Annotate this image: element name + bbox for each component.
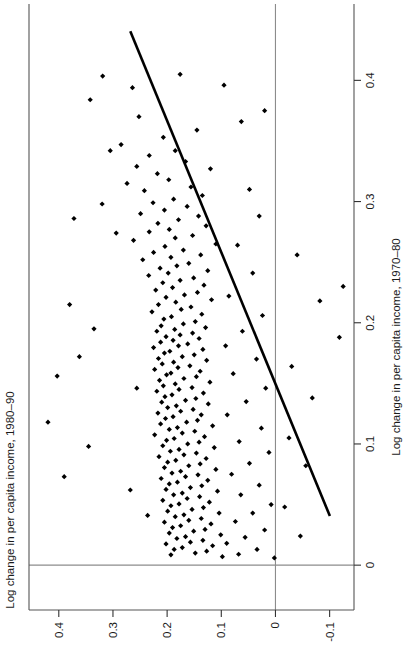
scatter-point [155,221,160,226]
scatter-point [152,367,157,372]
scatter-point [178,523,183,528]
scatter-point [155,171,160,176]
scatter-point [269,502,274,507]
scatter-point [176,501,181,506]
scatter-point [244,399,249,404]
scatter-point [208,166,213,171]
y-axis-title: Log change in per capita income, 1980–90 [4,391,16,608]
scatter-point [159,476,164,481]
y-axis-tick-label: 0.1 [215,622,227,638]
scatter-point [67,302,72,307]
scatter-point [185,496,190,501]
scatter-point [259,426,264,431]
scatter-point [181,376,186,381]
scatter-point [198,252,203,257]
scatter-point [224,541,229,546]
scatter-point [145,513,150,518]
scatter-point [138,211,143,216]
scatter-point [155,410,160,415]
x-axis-title: Log change in per capita income, 1970–80 [390,238,402,455]
scatter-point [171,492,176,497]
scatter-point [239,119,244,124]
scatter-point [185,341,190,346]
x-axis-tick-label: 0.2 [364,315,376,331]
y-axis-tick-label: 0.2 [161,622,173,638]
scatter-point [114,230,119,235]
scatter-point [191,529,196,534]
scatter-point [45,420,50,425]
scatter-point [163,487,168,492]
scatter-point [204,456,209,461]
scatter-point [180,430,185,435]
scatter-point [189,385,194,390]
scatter-point [169,470,174,475]
scatter-point [199,312,204,317]
scatter-point [206,401,211,406]
scatter-point [191,407,196,412]
scatter-points-group [45,72,345,561]
scatter-point [156,356,161,361]
scatter-point [172,547,177,552]
scatter-point [161,317,166,322]
scatter-point [162,207,167,212]
scatter-point [168,503,173,508]
scatter-point [178,409,183,414]
scatter-point [295,252,300,257]
scatter-point [118,142,123,147]
scatter-point [207,380,212,385]
scatter-point [231,371,236,376]
scatter-point [168,449,173,454]
scatter-point [200,347,205,352]
scatter-point [136,114,141,119]
scatter-point [91,326,96,331]
scatter-point [317,298,322,303]
scatter-point [235,243,240,248]
scatter-point [169,392,174,397]
scatter-point [169,314,174,319]
x-axis-tick-label: 0 [364,562,376,568]
scatter-point [233,519,238,524]
scatter-point [193,550,198,555]
scatter-point [263,386,268,391]
scatter-point [147,229,152,234]
scatter-point [157,266,162,271]
scatter-point [199,516,204,521]
y-axis-tick-label: -0.1 [324,622,336,642]
scatter-point [168,255,173,260]
scatter-point [189,507,194,512]
scatter-point [247,461,252,466]
scatter-point [200,193,205,198]
scatter-point [197,494,202,499]
scatter-point [167,530,172,535]
scatter-point [199,483,204,488]
scatter-point [160,498,165,503]
scatter-point [163,334,168,339]
scatter-point [159,323,164,328]
scatter-point [337,335,342,340]
scatter-point [194,374,199,379]
scatter-point [257,483,262,488]
scatter-point [217,510,222,515]
scatter-point [175,365,180,370]
scatter-point [226,293,231,298]
scatter-point [181,247,186,252]
scatter-point [151,250,156,255]
scatter-point [178,72,183,77]
scatter-point [158,340,163,345]
scatter-point [164,438,169,443]
y-axis-tick-label: 0.3 [107,622,119,638]
scatter-point [223,343,228,348]
scatter-point [188,304,193,309]
scatter-point [173,148,178,153]
scatter-point [175,480,180,485]
scatter-point [157,378,162,383]
scatter-point [201,283,206,288]
scatter-point [170,414,175,419]
scatter-point [174,263,179,268]
scatter-point [171,197,176,202]
scatter-point [159,400,164,405]
scatter-point [183,474,188,479]
scatter-point [158,421,163,426]
scatter-point [153,287,158,292]
scatter-point [173,300,178,305]
